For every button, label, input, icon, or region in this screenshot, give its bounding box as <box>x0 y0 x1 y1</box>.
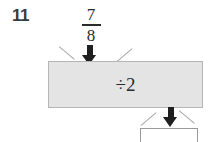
funnel-line-bottom-right <box>179 110 195 124</box>
fraction-numerator: 7 <box>78 6 104 23</box>
machine-operation-label: ÷2 <box>49 75 202 94</box>
problem-number: 11 <box>12 7 29 24</box>
fraction-denominator: 8 <box>78 27 104 44</box>
arrow-down-icon-output <box>163 107 178 127</box>
answer-box[interactable] <box>140 128 198 142</box>
arrow-head <box>163 117 177 127</box>
input-fraction: 7 8 <box>78 6 104 44</box>
funnel-line-bottom-left <box>141 112 157 126</box>
function-machine-diagram: 11 7 8 ÷2 <box>0 0 211 142</box>
funnel-line-top-left <box>59 46 75 60</box>
machine-box: ÷2 <box>48 61 203 108</box>
